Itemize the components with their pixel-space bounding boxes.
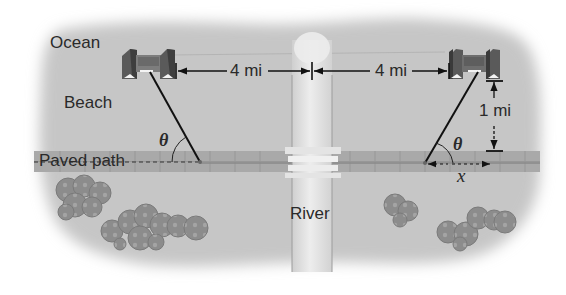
diagram-canvas: Ocean Beach Paved path River 4 mi 4 mi 1…: [0, 0, 566, 295]
label-angle-right: θ: [453, 135, 462, 153]
label-right-distance: 4 mi: [375, 62, 407, 79]
label-angle-left: θ: [159, 131, 168, 149]
label-ocean: Ocean: [50, 34, 100, 51]
label-paved-path: Paved path: [39, 152, 125, 169]
label-x: x: [457, 166, 465, 185]
label-beach: Beach: [64, 94, 112, 111]
label-vertical-distance: 1 mi: [479, 102, 511, 119]
label-left-distance: 4 mi: [230, 62, 262, 79]
label-river: River: [290, 205, 330, 222]
